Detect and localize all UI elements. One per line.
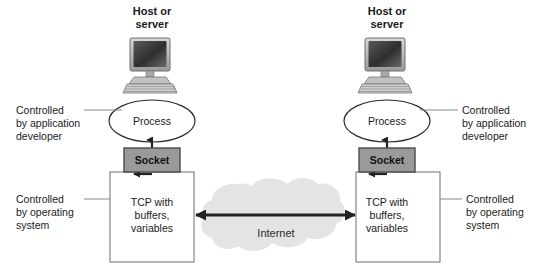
left-ann-os-line3: system (16, 219, 50, 231)
right-annotation-application: Controlled by application developer (420, 104, 526, 142)
right-tcp-label-line2: buffers, (370, 209, 405, 221)
left-host-title-line2: server (135, 18, 169, 30)
left-socket-label: Socket (135, 154, 170, 166)
socket-communication-diagram: Internet Host or server Process (0, 0, 551, 270)
left-ann-app-line2: by application (16, 117, 80, 129)
right-ann-os-line1: Controlled (466, 193, 514, 205)
right-annotation-os: Controlled by operating system (440, 193, 524, 231)
right-process-label: Process (368, 115, 406, 127)
right-ann-app-line1: Controlled (462, 104, 510, 116)
left-process-label: Process (133, 115, 171, 127)
right-tcp-label-line3: variables (366, 222, 408, 234)
right-host-group: Host or server Process Socket TCP with b… (344, 5, 526, 262)
left-ann-app-line3: developer (16, 130, 63, 142)
left-ann-os-line2: by operating (16, 206, 74, 218)
left-host-group: Host or server Process Socket TC (16, 5, 195, 262)
right-host-title-line1: Host or (368, 5, 407, 17)
left-ann-app-line1: Controlled (16, 104, 64, 116)
left-tcp-label-line3: variables (131, 222, 173, 234)
right-ann-os-line2: by operating (466, 206, 524, 218)
left-host-title-line1: Host or (133, 5, 172, 17)
left-tcp-label-line1: TCP with (131, 196, 174, 208)
left-annotation-application: Controlled by application developer (16, 104, 122, 142)
left-annotation-os: Controlled by operating system (16, 193, 110, 231)
right-ann-app-line3: developer (462, 130, 509, 142)
right-ann-os-line3: system (466, 219, 500, 231)
right-ann-app-line2: by application (462, 117, 526, 129)
left-tcp-label-line2: buffers, (135, 209, 170, 221)
right-host-title-line2: server (370, 18, 404, 30)
right-tcp-label-line1: TCP with (366, 196, 409, 208)
left-ann-os-line1: Controlled (16, 193, 64, 205)
right-socket-label: Socket (370, 154, 405, 166)
right-desktop-computer-icon (358, 38, 412, 93)
diagram-canvas: Internet Host or server Process (0, 0, 551, 270)
left-desktop-computer-icon (123, 38, 177, 93)
internet-label: Internet (257, 227, 294, 239)
